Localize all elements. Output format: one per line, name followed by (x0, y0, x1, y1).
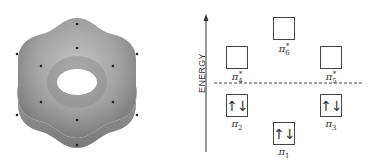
arrow-up-icon (204, 14, 209, 21)
label-pi6-star: π6* (269, 42, 299, 57)
orbital-pi4-star (226, 46, 248, 69)
mo-energy-diagram: ENERGY π6* π4* π5* ↑↓ π2 ↑↓ π3 ↑↓ π1 (190, 0, 374, 167)
label-pi3: π3 (316, 118, 346, 132)
orbital-pi6-star (273, 17, 295, 40)
donut-hole (57, 69, 97, 95)
orbital-pi5-star (320, 46, 342, 69)
orbital-pi3: ↑↓ (320, 94, 342, 117)
label-pi1: π1 (269, 146, 299, 160)
orbital-pi2: ↑↓ (226, 94, 248, 117)
orbital-pi1: ↑↓ (273, 122, 295, 145)
label-pi4-star: π4* (222, 70, 252, 85)
pi-surface-panel (0, 0, 190, 167)
energy-axis-label: ENERGY (197, 53, 207, 93)
benzene-pi-surface (0, 0, 190, 167)
label-pi2: π2 (222, 118, 252, 132)
label-pi5-star: π5* (316, 70, 346, 85)
